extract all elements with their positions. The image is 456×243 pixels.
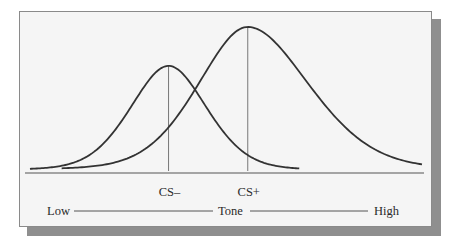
axis-high-label: High (374, 204, 400, 218)
axis-low-label: Low (47, 204, 70, 218)
marker-label-csplus: CS+ (238, 185, 260, 199)
figure: CS–CS+ Low Tone High (0, 0, 456, 243)
marker-label-csminus: CS– (159, 185, 181, 199)
axis-center-label: Tone (218, 204, 243, 218)
